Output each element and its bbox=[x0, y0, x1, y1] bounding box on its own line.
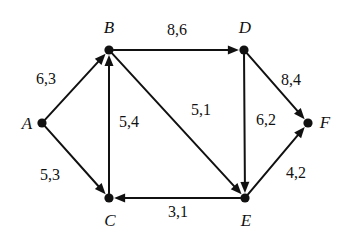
edge-weight-label-d-e: 6,2 bbox=[256, 112, 276, 128]
edge-line-d-e bbox=[244, 55, 245, 184]
edge-weight-label-e-f: 4,2 bbox=[286, 165, 306, 181]
edge-weight-label-a-b: 6,3 bbox=[36, 71, 56, 87]
edge-weight-label-a-c: 5,3 bbox=[40, 167, 60, 183]
edge-weight-label-c-b: 5,4 bbox=[119, 114, 139, 130]
node-label-b: B bbox=[104, 19, 114, 36]
edge-weight-label-d-f: 8,4 bbox=[281, 72, 301, 88]
arrowhead-d-e bbox=[240, 182, 249, 193]
node-dot-f bbox=[303, 118, 312, 127]
node-dot-e bbox=[240, 193, 249, 202]
arrowhead-c-b bbox=[105, 55, 114, 66]
node-dot-c bbox=[104, 193, 113, 202]
edge-weight-label-b-d: 8,6 bbox=[167, 22, 187, 38]
node-label-e: E bbox=[241, 212, 251, 229]
arrowhead-b-d bbox=[228, 46, 239, 55]
node-dot-a bbox=[37, 118, 46, 127]
edge-weight-label-b-e: 5,1 bbox=[191, 102, 211, 118]
edge-weight-label-e-c: 3,1 bbox=[168, 204, 188, 220]
node-label-d: D bbox=[239, 19, 251, 36]
node-label-f: F bbox=[320, 114, 330, 131]
node-label-a: A bbox=[22, 115, 32, 132]
node-label-c: C bbox=[104, 212, 115, 229]
graph-figure: ABCDEF 6,35,35,48,65,16,28,43,14,2 bbox=[0, 0, 342, 239]
node-dot-b bbox=[104, 45, 113, 54]
arrowhead-e-c bbox=[114, 194, 125, 203]
node-dot-d bbox=[239, 45, 248, 54]
